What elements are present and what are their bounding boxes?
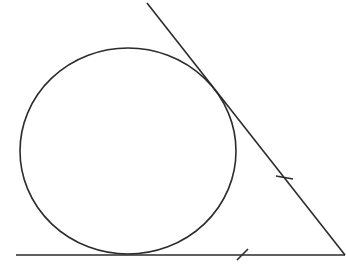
slant-tangent <box>147 3 345 255</box>
circle <box>20 48 236 254</box>
tangent-circle-diagram <box>0 0 346 271</box>
